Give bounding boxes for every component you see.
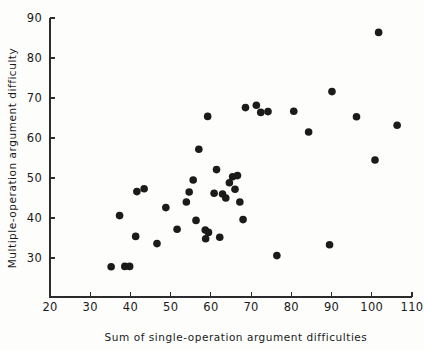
x-tick-label: 110 xyxy=(401,300,424,314)
data-point xyxy=(126,263,134,271)
x-tick-label: 30 xyxy=(83,300,98,314)
y-tick-label: 30 xyxy=(27,251,42,265)
x-axis-tick-labels: 2030405060708090100110 xyxy=(42,300,423,314)
x-tick-label: 40 xyxy=(123,300,138,314)
data-point xyxy=(133,188,141,196)
data-point xyxy=(375,29,383,37)
data-point xyxy=(253,101,261,109)
y-tick-label: 90 xyxy=(27,11,42,25)
axis-lines xyxy=(50,18,412,297)
data-point xyxy=(205,229,213,237)
data-point xyxy=(236,198,244,206)
x-tick-label: 60 xyxy=(203,300,218,314)
data-point xyxy=(153,240,161,248)
data-points-group xyxy=(107,29,401,271)
data-point xyxy=(189,176,197,184)
y-axis-ticks xyxy=(50,18,55,258)
x-tick-label: 70 xyxy=(243,300,258,314)
plot-canvas: 2030405060708090100110 30405060708090 Su… xyxy=(0,0,424,350)
data-point xyxy=(132,233,140,241)
scatter-plot-figure: 2030405060708090100110 30405060708090 Su… xyxy=(0,0,424,350)
axis-group xyxy=(50,18,412,297)
data-point xyxy=(290,107,298,115)
data-point xyxy=(173,225,181,233)
data-point xyxy=(162,204,170,212)
y-axis-tick-labels: 30405060708090 xyxy=(27,11,42,265)
data-point xyxy=(353,113,361,121)
data-point xyxy=(326,241,334,249)
data-point xyxy=(222,194,230,202)
y-tick-label: 40 xyxy=(27,211,42,225)
x-axis-ticks xyxy=(50,292,412,297)
data-point xyxy=(371,156,379,164)
data-point xyxy=(107,263,115,271)
data-point xyxy=(305,128,313,136)
data-point xyxy=(264,108,272,116)
data-point xyxy=(140,185,148,193)
data-point xyxy=(216,233,224,241)
data-point xyxy=(204,113,212,121)
x-tick-label: 90 xyxy=(324,300,339,314)
data-point xyxy=(242,104,250,112)
y-tick-label: 50 xyxy=(27,171,42,185)
y-tick-label: 80 xyxy=(27,51,42,65)
data-point xyxy=(328,88,336,96)
y-tick-label: 60 xyxy=(27,131,42,145)
data-point xyxy=(210,189,218,197)
data-point xyxy=(192,217,200,225)
data-point xyxy=(116,212,124,220)
data-point xyxy=(393,121,401,129)
data-point xyxy=(195,145,203,153)
x-tick-label: 20 xyxy=(42,300,57,314)
data-point xyxy=(239,216,247,224)
data-point xyxy=(257,109,265,117)
x-axis-title: Sum of single-operation argument difficu… xyxy=(105,331,368,343)
data-point xyxy=(213,166,221,174)
x-tick-label: 50 xyxy=(163,300,178,314)
x-tick-label: 80 xyxy=(284,300,299,314)
data-point xyxy=(185,188,193,196)
data-point xyxy=(231,185,239,193)
data-point xyxy=(234,172,242,180)
y-axis-title: Multiple-operation argument difficulty xyxy=(6,48,18,269)
data-point xyxy=(273,252,281,260)
data-point xyxy=(183,198,191,206)
y-tick-label: 70 xyxy=(27,91,42,105)
x-tick-label: 100 xyxy=(360,300,383,314)
